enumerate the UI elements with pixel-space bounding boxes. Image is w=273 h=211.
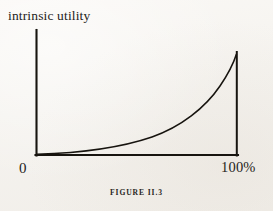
x-axis-tick-label-min: 0 [19, 161, 27, 176]
y-axis-label: intrinsic utility [8, 9, 90, 23]
figure-caption: FIGURE II.3 [0, 188, 273, 197]
figure-container: intrinsic utility 0 100% FIGURE II.3 [0, 0, 273, 211]
plot-area [0, 0, 273, 211]
x-axis-tick-label-max: 100% [221, 160, 256, 175]
utility-curve [37, 54, 237, 154]
